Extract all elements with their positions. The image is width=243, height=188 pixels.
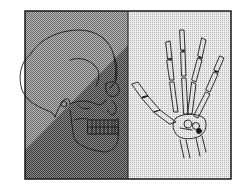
skull-and-hand-illustration [0,0,243,188]
hand-panel [128,11,231,179]
skull-panel [25,11,128,179]
